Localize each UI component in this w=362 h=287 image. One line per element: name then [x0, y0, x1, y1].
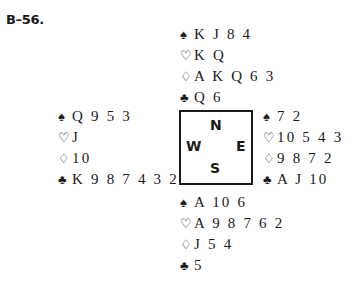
diamond-icon: ♢	[58, 149, 72, 169]
south-diamonds: ♢J 5 4	[180, 234, 284, 255]
diamond-icon: ♢	[180, 67, 194, 87]
heart-icon: ♡	[263, 128, 277, 148]
west-hand: ♠Q 9 5 3 ♡J ♢10 ♣K 9 8 7 4 3 2	[58, 106, 179, 190]
north-diamonds: ♢A K Q 6 3	[180, 66, 275, 87]
spade-icon: ♠	[263, 107, 277, 127]
west-clubs: ♣K 9 8 7 4 3 2	[58, 169, 179, 190]
diamond-icon: ♢	[180, 235, 194, 255]
east-diamonds: ♢9 8 7 2	[263, 148, 343, 169]
north-spades: ♠K J 8 4	[180, 24, 275, 45]
east-hand: ♠7 2 ♡10 5 4 3 ♢9 8 7 2 ♣A J 10	[263, 106, 343, 190]
east-hearts: ♡10 5 4 3	[263, 127, 343, 148]
compass-box: N W E S	[179, 110, 253, 185]
spade-icon: ♠	[58, 107, 72, 127]
west-hearts: ♡J	[58, 127, 179, 148]
south-spades: ♠A 10 6	[180, 192, 284, 213]
west-diamonds: ♢10	[58, 148, 179, 169]
compass-north: N	[210, 117, 222, 133]
south-hearts: ♡A 9 8 7 6 2	[180, 213, 284, 234]
diamond-icon: ♢	[263, 149, 277, 169]
compass-south: S	[210, 160, 220, 176]
east-clubs: ♣A J 10	[263, 169, 343, 190]
heart-icon: ♡	[180, 214, 194, 234]
south-clubs: ♣5	[180, 255, 284, 276]
club-icon: ♣	[58, 170, 72, 190]
east-spades: ♠7 2	[263, 106, 343, 127]
compass-east: E	[236, 138, 246, 154]
club-icon: ♣	[180, 88, 194, 108]
west-spades: ♠Q 9 5 3	[58, 106, 179, 127]
compass-west: W	[186, 138, 201, 154]
north-hand: ♠K J 8 4 ♡K Q ♢A K Q 6 3 ♣Q 6	[180, 24, 275, 108]
club-icon: ♣	[180, 256, 194, 276]
spade-icon: ♠	[180, 25, 194, 45]
north-clubs: ♣Q 6	[180, 87, 275, 108]
spade-icon: ♠	[180, 193, 194, 213]
club-icon: ♣	[263, 170, 277, 190]
heart-icon: ♡	[180, 46, 194, 66]
north-hearts: ♡K Q	[180, 45, 275, 66]
heart-icon: ♡	[58, 128, 72, 148]
problem-label: B–56.	[6, 12, 44, 27]
south-hand: ♠A 10 6 ♡A 9 8 7 6 2 ♢J 5 4 ♣5	[180, 192, 284, 276]
